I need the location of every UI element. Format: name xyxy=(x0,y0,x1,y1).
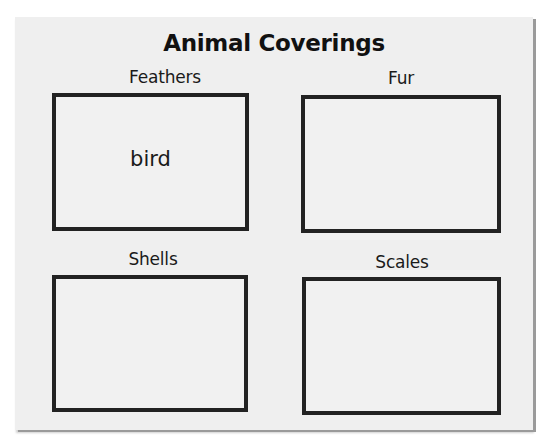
category-box-fur[interactable] xyxy=(301,95,501,233)
category-box-scales[interactable] xyxy=(302,277,501,415)
category-box-shells[interactable] xyxy=(52,275,248,412)
category-label-scales: Scales xyxy=(302,252,502,272)
category-label-shells: Shells xyxy=(53,249,253,269)
category-label-feathers: Feathers xyxy=(65,67,265,87)
worksheet-paper: Animal Coverings Feathers bird Fur Shell… xyxy=(15,17,533,430)
entry-text: bird xyxy=(56,147,245,171)
category-label-fur: Fur xyxy=(301,68,501,88)
worksheet-title: Animal Coverings xyxy=(15,30,533,56)
category-box-feathers[interactable]: bird xyxy=(52,93,249,231)
